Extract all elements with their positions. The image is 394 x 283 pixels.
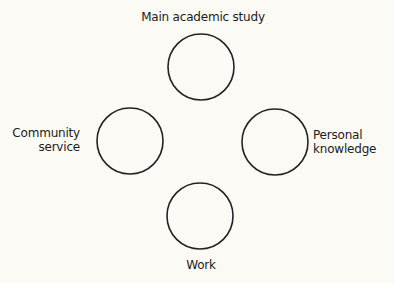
- label-line: Work: [170, 258, 232, 272]
- label-personal-knowledge: Personal knowledge: [313, 128, 376, 156]
- circle-community-service: [97, 108, 163, 174]
- label-line: Community: [12, 126, 80, 140]
- label-line: Personal: [313, 128, 376, 142]
- label-line: knowledge: [313, 142, 376, 156]
- label-line: service: [12, 140, 80, 154]
- circle-personal-knowledge: [242, 109, 308, 175]
- label-work: Work: [170, 258, 232, 272]
- label-community-service: Community service: [12, 126, 80, 154]
- circle-work: [167, 183, 233, 249]
- label-line: Main academic study: [140, 10, 266, 24]
- label-main-academic-study: Main academic study: [140, 10, 266, 24]
- diagram-canvas: Main academic study Community service Pe…: [0, 0, 394, 283]
- circle-main-academic-study: [168, 34, 234, 100]
